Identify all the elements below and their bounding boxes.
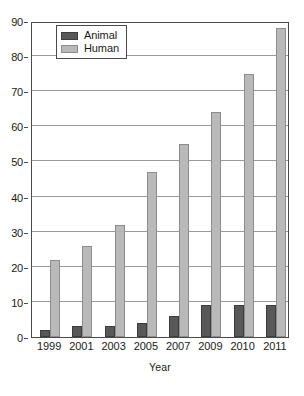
bar-animal-2009: [201, 305, 211, 337]
y-tick-label: 0: [17, 332, 23, 344]
x-axis: 19992001200320052007200920102011: [31, 340, 289, 356]
y-tick-mark: [24, 57, 28, 58]
y-tick-mark: [24, 22, 28, 23]
y-tick-mark: [24, 268, 28, 269]
bar-group: [234, 23, 254, 337]
legend-label: Animal: [84, 29, 117, 42]
y-tick-mark: [24, 233, 28, 234]
bar-human-2001: [82, 246, 92, 337]
bar-group: [201, 23, 221, 337]
bar-human-2010: [244, 74, 254, 337]
y-axis: 0102030405060708090: [0, 22, 28, 338]
legend: AnimalHuman: [56, 25, 127, 59]
bar-human-2009: [211, 112, 221, 337]
bar-group: [266, 23, 286, 337]
legend-label: Human: [84, 42, 119, 55]
bar-human-2011: [276, 28, 286, 337]
y-tick-mark: [24, 338, 28, 339]
y-tick-label: 90: [11, 16, 23, 28]
bar-group: [40, 23, 60, 337]
bar-animal-2010: [234, 305, 244, 337]
bar-group: [72, 23, 92, 337]
bar-group: [105, 23, 125, 337]
x-tick-label: 2005: [134, 340, 158, 352]
legend-swatch-icon: [61, 45, 78, 53]
y-tick-mark: [24, 303, 28, 304]
y-tick-mark: [24, 198, 28, 199]
legend-swatch-icon: [61, 32, 78, 40]
y-tick-label: 60: [11, 121, 23, 133]
bars-layer: [32, 23, 288, 337]
x-tick-label: 2011: [263, 340, 286, 352]
y-tick-mark: [24, 127, 28, 128]
legend-item-human: Human: [61, 42, 119, 55]
y-tick-mark: [24, 162, 28, 163]
y-tick-label: 80: [11, 51, 23, 63]
bar-human-2005: [147, 172, 157, 337]
y-tick-label: 40: [11, 192, 23, 204]
bar-animal-1999: [40, 330, 50, 337]
bar-animal-2001: [72, 326, 82, 337]
bar-human-1999: [50, 260, 60, 337]
bar-animal-2011: [266, 305, 276, 337]
y-tick-label: 20: [11, 262, 23, 274]
x-tick-label: 1999: [37, 340, 61, 352]
y-tick-mark: [24, 92, 28, 93]
bar-human-2007: [179, 144, 189, 337]
y-tick-label: 50: [11, 156, 23, 168]
x-tick-label: 2010: [231, 340, 255, 352]
bar-group: [137, 23, 157, 337]
x-tick-label: 2007: [166, 340, 190, 352]
bar-animal-2007: [169, 316, 179, 337]
bar-group: [169, 23, 189, 337]
bar-animal-2005: [137, 323, 147, 337]
y-tick-label: 70: [11, 86, 23, 98]
bar-animal-2003: [105, 326, 115, 337]
x-tick-label: 2003: [102, 340, 126, 352]
plot-area: [31, 22, 289, 338]
bar-human-2003: [115, 225, 125, 337]
bar-chart-figure: 0102030405060708090 19992001200320052007…: [0, 0, 304, 396]
y-tick-label: 10: [11, 297, 23, 309]
x-axis-title: Year: [31, 361, 289, 373]
x-tick-label: 2009: [198, 340, 222, 352]
y-tick-label: 30: [11, 227, 23, 239]
legend-item-animal: Animal: [61, 29, 119, 42]
x-tick-label: 2001: [69, 340, 93, 352]
